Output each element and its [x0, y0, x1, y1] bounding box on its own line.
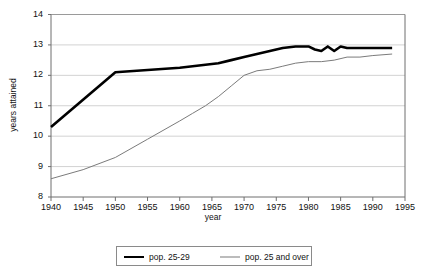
legend-line-icon-series-0	[124, 252, 144, 262]
chart-container: years attained 891011121314 194019451950…	[0, 0, 426, 276]
plot-area	[0, 0, 426, 276]
y-tick-label-12: 12	[17, 70, 43, 79]
y-tick-label-9: 9	[17, 162, 43, 171]
legend-item-pop-25-29: pop. 25-29	[124, 251, 190, 263]
y-tick-label-8: 8	[17, 192, 43, 201]
series-line-1	[51, 54, 392, 179]
y-tick-label-13: 13	[17, 40, 43, 49]
chart-legend: pop. 25-29 pop. 25 and over	[116, 246, 312, 266]
x-axis-title: year	[0, 212, 426, 222]
x-tick-label-1995: 1995	[385, 203, 425, 212]
legend-line-icon-series-1	[220, 252, 240, 262]
y-tick-label-10: 10	[17, 131, 43, 140]
legend-label-series-0: pop. 25-29	[149, 252, 190, 262]
legend-label-series-1: pop. 25 and over	[245, 252, 309, 262]
legend-item-pop-25-and-over: pop. 25 and over	[220, 251, 309, 263]
y-tick-label-11: 11	[17, 101, 43, 110]
y-tick-label-14: 14	[17, 10, 43, 19]
